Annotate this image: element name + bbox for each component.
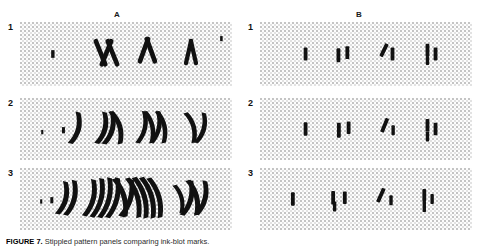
- blot-layer-b-3: [260, 168, 472, 230]
- caption-text: Stippled pattern panels comparing ink-bl…: [43, 237, 210, 246]
- blot-layer-a-3: [20, 168, 232, 230]
- row-label-b-3: 3: [248, 168, 253, 178]
- panel-b-1: [260, 22, 472, 86]
- row-label-a-2: 2: [8, 98, 13, 108]
- caption-lead: FIGURE 7.: [6, 237, 43, 246]
- row-label-a-3: 3: [8, 168, 13, 178]
- panel-b-3: [260, 168, 472, 230]
- row-label-b-2: 2: [248, 98, 253, 108]
- panel-a-1: [20, 22, 232, 86]
- blot-layer-b-2: [260, 98, 472, 160]
- panel-a-3: [20, 168, 232, 230]
- panel-b-2: [260, 98, 472, 160]
- row-label-b-1: 1: [248, 22, 253, 32]
- row-label-a-1: 1: [8, 22, 13, 32]
- panel-a-2: [20, 98, 232, 160]
- blot-layer-a-1: [20, 22, 232, 86]
- figure-caption: FIGURE 7. Stippled pattern panels compar…: [6, 237, 476, 246]
- column-header-a: A: [114, 10, 120, 20]
- blot-layer-a-2: [20, 98, 232, 160]
- column-header-b: B: [356, 10, 362, 20]
- figure-root: A B 1 2 3 1 2 3 FIGURE 7. Stippled patte…: [0, 0, 482, 248]
- blot-layer-b-1: [260, 22, 472, 86]
